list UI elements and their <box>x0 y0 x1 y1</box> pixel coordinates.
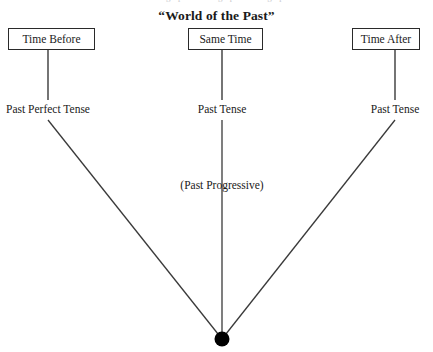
node-label-same-time: Same Time <box>199 33 251 45</box>
connector-lines <box>0 0 433 352</box>
tense-label-past-perfect: Past Perfect Tense <box>6 103 90 115</box>
node-box-time-after[interactable]: Time After <box>352 28 420 50</box>
converging-line-left <box>48 120 222 339</box>
vertex-dot <box>215 332 230 347</box>
node-label-time-before: Time Before <box>22 33 80 45</box>
node-box-same-time[interactable]: Same Time <box>188 28 263 50</box>
tense-label-past-center: Past Tense <box>198 103 247 115</box>
aspect-label-past-progressive: (Past Progressive) <box>180 179 263 191</box>
node-label-time-after: Time After <box>361 33 411 45</box>
converging-line-right <box>222 120 395 339</box>
tense-label-past-right: Past Tense <box>371 103 420 115</box>
node-box-time-before[interactable]: Time Before <box>8 28 95 50</box>
diagram-canvas: an in ngn pa n n m ngn p an nm ngn pan “… <box>0 0 433 352</box>
